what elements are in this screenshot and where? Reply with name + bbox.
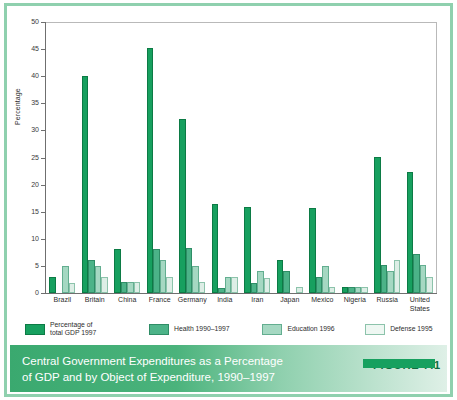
x-axis-label: Mexico: [306, 296, 339, 313]
legend-swatch-icon: [262, 324, 282, 335]
figure-frame-right: [450, 3, 453, 397]
y-tick-label: 45: [31, 44, 39, 53]
bar-group: [46, 22, 79, 293]
legend-item[interactable]: Defense 1995: [365, 324, 445, 335]
legend-swatch-icon: [149, 324, 169, 335]
chart-legend: Percentage of total GDP 1997Health 1990–…: [25, 316, 445, 342]
y-tick-0: 0: [45, 293, 46, 294]
y-tick-label: 15: [31, 207, 39, 216]
legend-swatch-icon: [25, 324, 45, 335]
plot-right-border: [436, 22, 437, 294]
y-tick-label: 0: [35, 288, 39, 297]
x-axis-label: Russia: [371, 296, 404, 313]
bar-group: [176, 22, 209, 293]
bar: [361, 287, 368, 293]
figure-caption-text: Central Government Expenditures as a Per…: [22, 353, 332, 385]
y-tick-mark: [41, 293, 46, 294]
bar-groups: [46, 22, 436, 293]
bar-group: [371, 22, 404, 293]
y-tick-label: 40: [31, 71, 39, 80]
chart-plot-panel: Percentage 05101520253035404550 BrazilBr…: [12, 10, 445, 338]
figure-container: Percentage 05101520253035404550 BrazilBr…: [0, 0, 457, 400]
legend-label: Health 1990–1997: [174, 325, 230, 333]
y-tick-label: 25: [31, 153, 39, 162]
legend-item[interactable]: Health 1990–1997: [149, 324, 248, 335]
bar: [166, 277, 173, 293]
y-tick-label: 30: [31, 125, 39, 134]
x-axis-label: United States: [404, 296, 437, 313]
y-tick-label: 10: [31, 234, 39, 243]
bar-group: [306, 22, 339, 293]
bar: [244, 207, 251, 293]
legend-item[interactable]: Education 1996: [262, 324, 351, 335]
x-axis-label: China: [111, 296, 144, 313]
x-axis-label: Nigeria: [339, 296, 372, 313]
bar-group: [144, 22, 177, 293]
x-axis-label: Brazil: [46, 296, 79, 313]
y-tick-label: 35: [31, 98, 39, 107]
bar: [231, 277, 238, 293]
y-tick-label: 5: [35, 261, 39, 270]
x-axis-label: France: [144, 296, 177, 313]
y-tick-label: 50: [31, 17, 39, 26]
x-axis-label: Japan: [274, 296, 307, 313]
x-axis-label: Iran: [241, 296, 274, 313]
figure-caption-bar: Central Government Expenditures as a Per…: [10, 345, 447, 392]
bar: [394, 260, 401, 293]
bar: [329, 287, 336, 293]
x-axis-label: India: [209, 296, 242, 313]
bar: [283, 271, 290, 293]
bar-group: [79, 22, 112, 293]
bar: [212, 204, 219, 293]
bar: [49, 277, 56, 293]
bar: [426, 277, 433, 293]
x-axis-label: Britain: [79, 296, 112, 313]
x-axis-label: Germany: [176, 296, 209, 313]
bar-group: [111, 22, 144, 293]
legend-item[interactable]: Percentage of total GDP 1997: [25, 321, 135, 337]
bar-group: [209, 22, 242, 293]
figure-frame-bottom: [4, 394, 453, 397]
figure-frame-left: [4, 3, 7, 397]
figure-frame-top: [4, 3, 453, 6]
chart-axes: 05101520253035404550: [45, 22, 437, 294]
x-axis-labels: BrazilBritainChinaFranceGermanyIndiaIran…: [46, 296, 436, 313]
legend-swatch-icon: [365, 324, 385, 335]
figure-tag-accent-bar: [363, 359, 435, 368]
legend-label: Defense 1995: [390, 325, 432, 333]
x-axis-line: [45, 293, 437, 294]
bar: [134, 282, 141, 293]
legend-label: Education 1996: [287, 325, 334, 333]
legend-label: Percentage of total GDP 1997: [50, 321, 96, 337]
bar: [264, 278, 271, 293]
bar-group: [339, 22, 372, 293]
bar: [296, 287, 303, 293]
bar: [101, 277, 108, 293]
bar-group: [241, 22, 274, 293]
y-tick-label: 20: [31, 180, 39, 189]
bar-group: [274, 22, 307, 293]
y-axis-title: Percentage: [14, 88, 21, 125]
bar-group: [404, 22, 437, 293]
bar: [199, 282, 206, 293]
bar: [69, 283, 76, 293]
figure-tag-container: FIGURE 7.1: [373, 359, 441, 371]
